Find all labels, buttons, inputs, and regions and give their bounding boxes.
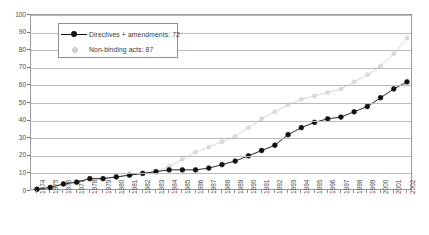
x-axis-tick-label: 1984 [171,180,178,194]
series-point [272,143,277,148]
x-axis-tick-mark [327,190,328,193]
x-axis-tick-label: 1985 [184,180,191,194]
y-axis-tick-mark [27,67,30,68]
x-axis-tick-mark [340,190,341,193]
series-point [391,87,396,92]
y-axis-tick-label: 0 [0,187,26,194]
x-axis-tick-label: 1997 [343,180,350,194]
x-axis-tick-mark [49,190,50,193]
x-axis-tick-label: 1978 [91,180,98,194]
series-point [405,36,409,40]
x-axis-tick-mark [393,190,394,193]
gridline [31,85,411,86]
x-axis-tick-mark [274,190,275,193]
x-axis-tick-mark [115,190,116,193]
series-point [313,94,317,98]
legend-label-nonbinding: Non-binding acts: 87 [89,46,153,53]
x-axis-tick-mark [366,190,367,193]
legend-label-directives: Directives + amendments: 72 [89,31,180,38]
y-axis-tick-mark [27,14,30,15]
gridline [31,68,411,69]
x-axis-tick-mark [406,190,407,193]
legend-marker-nonbinding-icon [59,43,89,55]
series-point [352,80,356,84]
gridline [31,15,411,16]
x-axis-tick-mark [234,190,235,193]
x-axis-tick-mark [62,190,63,193]
x-axis-tick-label: 1982 [144,180,151,194]
series-point [299,97,303,101]
x-axis-tick-label: 2000 [382,180,389,194]
y-axis-tick-label: 20 [0,151,26,158]
x-axis-tick-mark [181,190,182,193]
y-axis-tick-mark [27,190,30,191]
y-axis-tick-mark [27,137,30,138]
series-point [233,159,238,164]
series-point [365,73,369,77]
x-axis-tick-label: 1999 [369,180,376,194]
y-axis-tick-mark [27,49,30,50]
y-axis-tick-mark [27,172,30,173]
y-axis-tick-label: 50 [0,99,26,106]
legend-item-nonbinding: Non-binding acts: 87 [59,42,179,56]
series-point [365,104,370,109]
x-axis-tick-mark [76,190,77,193]
series-point [352,109,357,114]
x-axis-tick-label: 2001 [395,180,402,194]
x-axis-tick-mark [36,190,37,193]
x-axis-tick-mark [314,190,315,193]
series-point [339,115,344,120]
series-point [194,150,198,154]
series-point [259,148,264,153]
x-axis-tick-label: 1991 [263,180,270,194]
x-axis-tick-mark [208,190,209,193]
x-axis-tick-label: 1986 [197,180,204,194]
x-axis-tick-label: 1993 [290,180,297,194]
y-axis-tick-label: 70 [0,63,26,70]
series-point [180,167,185,172]
x-axis-tick-mark [102,190,103,193]
line-chart: 0102030405060708090100 19741975197619771… [0,0,429,235]
series-point [299,125,304,130]
x-axis-tick-label: 1995 [316,180,323,194]
x-axis-tick-mark [195,190,196,193]
y-axis-tick-label: 30 [0,134,26,141]
series-point [326,90,330,94]
series-point [207,145,211,149]
legend-marker-directives-icon [59,28,89,40]
x-axis-tick-label: 1977 [78,180,85,194]
gridline [31,173,411,174]
series-point [206,166,211,171]
x-axis-tick-label: 1976 [65,180,72,194]
x-axis-tick-mark [380,190,381,193]
y-axis-tick-label: 10 [0,169,26,176]
series-point [378,95,383,100]
y-axis-tick-label: 90 [0,28,26,35]
series-point [193,167,198,172]
x-axis-tick-label: 1996 [329,180,336,194]
x-axis-tick-label: 1994 [303,180,310,194]
x-axis-tick-label: 1987 [210,180,217,194]
series-point [220,140,224,144]
x-axis-tick-mark [261,190,262,193]
x-axis-tick-mark [221,190,222,193]
series-point [220,162,225,167]
series-point [392,52,396,56]
x-axis-tick-label: 1989 [237,180,244,194]
x-axis-tick-label: 1980 [118,180,125,194]
series-point [180,157,184,161]
series-point [246,126,250,130]
legend-item-directives: Directives + amendments: 72 [59,27,179,41]
x-axis-tick-label: 1988 [224,180,231,194]
gridline [31,121,411,122]
x-axis-tick-mark [168,190,169,193]
x-axis-tick-label: 1992 [276,180,283,194]
x-axis-tick-label: 1998 [356,180,363,194]
x-axis-tick-mark [353,190,354,193]
y-axis-tick-label: 40 [0,116,26,123]
x-axis-tick-label: 1974 [39,180,46,194]
y-axis-tick-mark [27,120,30,121]
x-axis-tick-mark [300,190,301,193]
y-axis-tick-mark [27,102,30,103]
x-axis-tick-mark [287,190,288,193]
